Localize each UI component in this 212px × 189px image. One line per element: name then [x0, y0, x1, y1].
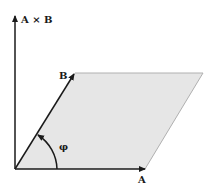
cross-product-diagram: A × B B A φ [0, 0, 212, 189]
vector-b-label: B [59, 70, 67, 81]
angle-label: φ [59, 141, 68, 152]
parallelogram [15, 73, 203, 169]
cross-product-label: A × B [20, 14, 53, 25]
vector-a-label: A [137, 174, 146, 185]
